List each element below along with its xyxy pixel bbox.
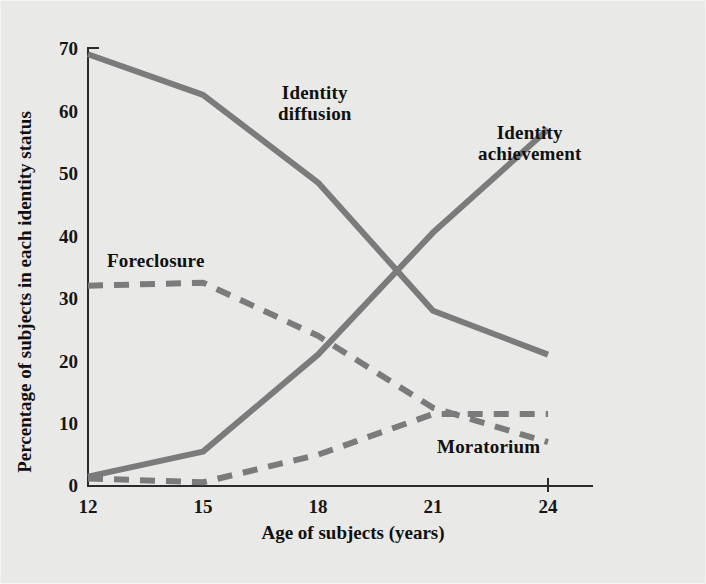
y-tick-label-50: 50 [59, 163, 78, 184]
line-chart-svg: 70 60 50 40 30 20 10 0 12 15 18 21 24 [0, 0, 706, 584]
plot-area: 70 60 50 40 30 20 10 0 12 15 18 21 24 Id… [0, 0, 706, 584]
series-label-identity-achievement: Identity achievement [478, 122, 582, 165]
chart-page: 70 60 50 40 30 20 10 0 12 15 18 21 24 Id… [0, 0, 706, 584]
x-tick-label-12: 12 [79, 496, 98, 517]
x-tick-label-15: 15 [194, 496, 213, 517]
y-tick-label-30: 30 [59, 288, 78, 309]
y-tick-label-20: 20 [59, 351, 78, 372]
x-axis-title-wrap: Age of subjects (years) [0, 522, 706, 544]
series-label-foreclosure: Foreclosure [107, 250, 205, 271]
series-line-foreclosure [88, 283, 548, 443]
x-axis-title: Age of subjects (years) [261, 522, 444, 543]
y-tick-label-40: 40 [59, 226, 78, 247]
x-tick-label-21: 21 [424, 496, 443, 517]
y-tick-label-70: 70 [59, 38, 78, 59]
series-label-moratorium: Moratorium [437, 436, 540, 457]
y-tick-label-60: 60 [59, 101, 78, 122]
x-tick-label-18: 18 [309, 496, 328, 517]
y-tick-label-0: 0 [69, 475, 79, 496]
y-axis-title-wrap: Percentage of subjects in each identity … [8, 0, 42, 584]
y-axis-title: Percentage of subjects in each identity … [14, 111, 36, 473]
y-tick-label-10: 10 [59, 413, 78, 434]
x-tick-label-24: 24 [539, 496, 559, 517]
series-label-identity-diffusion: Identity diffusion [278, 82, 352, 125]
